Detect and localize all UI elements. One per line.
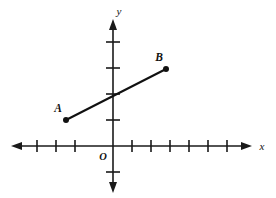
point-b-group: B xyxy=(154,51,169,72)
y-axis-arrow-down xyxy=(109,182,117,193)
coordinate-plane-figure: x y O A B xyxy=(0,0,276,198)
y-axis-label: y xyxy=(116,5,122,17)
point-b-label: B xyxy=(154,51,163,63)
point-a-label: A xyxy=(53,102,62,114)
point-b-dot xyxy=(163,66,169,72)
y-axis-arrow-up xyxy=(109,19,117,30)
origin-label: O xyxy=(99,151,107,162)
point-a-group: A xyxy=(53,102,69,123)
segment-ab xyxy=(66,69,166,120)
point-a-dot xyxy=(63,117,69,123)
x-axis-group: x xyxy=(11,140,265,152)
x-axis-arrow-right xyxy=(241,142,252,150)
x-axis-label: x xyxy=(259,140,265,152)
figure-canvas: x y O A B xyxy=(0,0,276,198)
x-axis-arrow-left xyxy=(11,142,22,150)
